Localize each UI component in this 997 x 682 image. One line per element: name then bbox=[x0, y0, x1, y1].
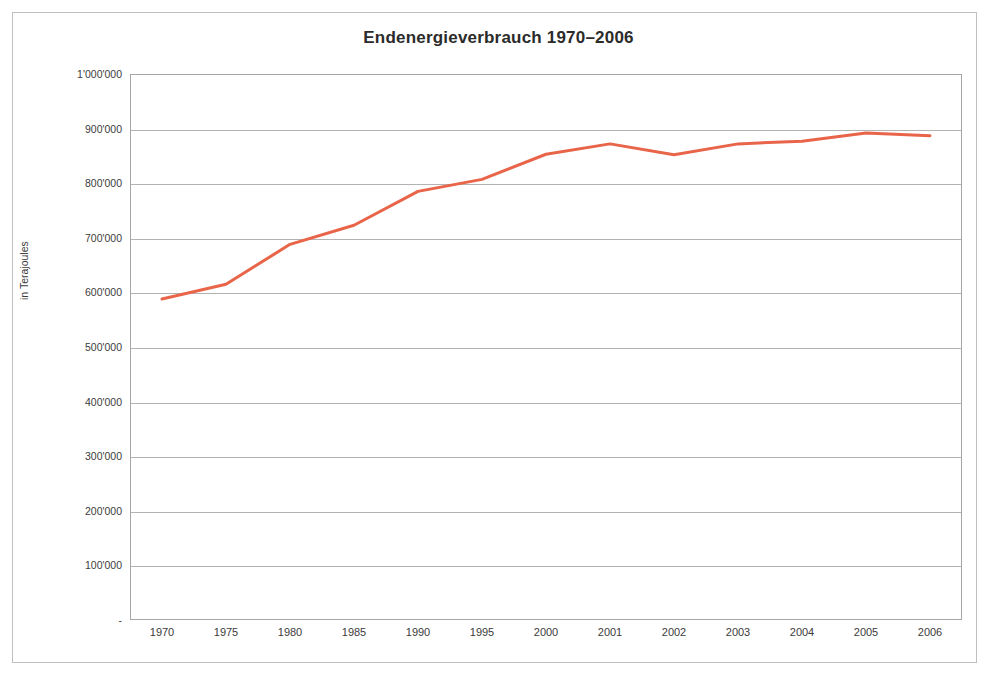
chart-title: Endenergieverbrauch 1970–2006 bbox=[0, 28, 997, 48]
x-axis-tick-label: 1990 bbox=[406, 626, 430, 638]
x-axis-tick-label: 1970 bbox=[150, 626, 174, 638]
x-axis-tick-label: 1975 bbox=[214, 626, 238, 638]
y-axis-tick-label: 800'000 bbox=[85, 177, 122, 189]
x-axis-tick-label: 2005 bbox=[854, 626, 878, 638]
series-line-chart bbox=[130, 74, 962, 620]
series-line-endenergieverbrauch bbox=[162, 133, 930, 299]
x-axis-tick-labels: 1970197519801985199019952000200120022003… bbox=[130, 626, 962, 650]
y-axis-tick-label: 600'000 bbox=[85, 286, 122, 298]
y-axis-title: in Terajoules bbox=[18, 241, 30, 300]
x-axis-tick-label: 2002 bbox=[662, 626, 686, 638]
y-axis-tick-label: 1'000'000 bbox=[77, 68, 122, 80]
x-axis-tick-label: 1980 bbox=[278, 626, 302, 638]
y-axis-tick-label: 900'000 bbox=[85, 123, 122, 135]
y-axis-tick-label: 200'000 bbox=[85, 505, 122, 517]
y-axis-tick-label: 700'000 bbox=[85, 232, 122, 244]
x-axis-tick-label: 1985 bbox=[342, 626, 366, 638]
x-axis-tick-label: 2000 bbox=[534, 626, 558, 638]
y-axis-tick-label: 400'000 bbox=[85, 396, 122, 408]
chart-screenshot: Endenergieverbrauch 1970–2006 in Terajou… bbox=[0, 0, 997, 682]
y-axis-tick-labels: -100'000200'000300'000400'000500'000600'… bbox=[48, 74, 122, 620]
x-axis-tick-label: 1995 bbox=[470, 626, 494, 638]
y-axis-tick-label: - bbox=[119, 614, 123, 626]
x-axis-tick-label: 2004 bbox=[790, 626, 814, 638]
x-axis-tick-label: 2003 bbox=[726, 626, 750, 638]
y-axis-tick-label: 300'000 bbox=[85, 450, 122, 462]
y-axis-tick-label: 100'000 bbox=[85, 559, 122, 571]
x-axis-tick-label: 2006 bbox=[918, 626, 942, 638]
y-axis-tick-label: 500'000 bbox=[85, 341, 122, 353]
x-axis-tick-label: 2001 bbox=[598, 626, 622, 638]
